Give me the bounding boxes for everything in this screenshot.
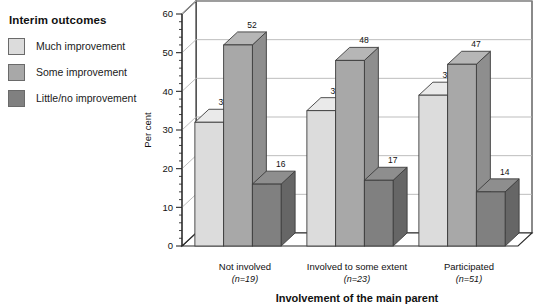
y-tick-label: 40: [162, 86, 173, 97]
chart-figure: Interim outcomes Much improvement Some i…: [0, 0, 550, 306]
x-category-label: Involved to some extent: [307, 261, 408, 272]
y-tick-label: 60: [162, 8, 173, 19]
y-tick-label: 30: [162, 124, 173, 135]
y-axis-title: Per cent: [142, 112, 153, 148]
x-category-count: (n=19): [232, 274, 258, 284]
bar-front-face: [224, 45, 253, 246]
y-tick-label: 0: [168, 240, 173, 251]
bar-front-face: [336, 60, 365, 246]
x-axis-title: Involvement of the main parent: [276, 292, 439, 304]
bar-front-face: [364, 180, 393, 246]
bar-front-face: [252, 184, 281, 246]
bar-side-face: [393, 167, 407, 246]
x-category-label: Participated: [444, 261, 494, 272]
x-category-label: Not involved: [219, 261, 271, 272]
bar-front-face: [448, 64, 477, 246]
bar-value-label: 47: [471, 39, 481, 49]
x-category-count: (n=51): [456, 274, 482, 284]
bar-value-label: 48: [359, 35, 369, 45]
y-tick-label: 20: [162, 163, 173, 174]
bar-3-3: [476, 179, 519, 246]
y-tick-label: 10: [162, 202, 173, 213]
x-category-count: (n=23): [344, 274, 370, 284]
bar-front-face: [419, 95, 448, 246]
y-tick-label: 50: [162, 47, 173, 58]
chart-svg: 0102030405060Per cent325216Not involved(…: [0, 0, 550, 306]
bar-front-face: [195, 122, 224, 246]
bar-front-face: [307, 111, 336, 246]
chart-plot: 0102030405060Per cent325216Not involved(…: [0, 0, 550, 306]
bar-value-label: 17: [388, 155, 398, 165]
bar-value-label: 16: [276, 159, 286, 169]
bar-value-label: 14: [500, 167, 510, 177]
bar-3-2: [364, 167, 407, 246]
bar-3-1: [252, 171, 295, 246]
bar-value-label: 52: [247, 20, 257, 30]
bar-front-face: [476, 192, 505, 246]
